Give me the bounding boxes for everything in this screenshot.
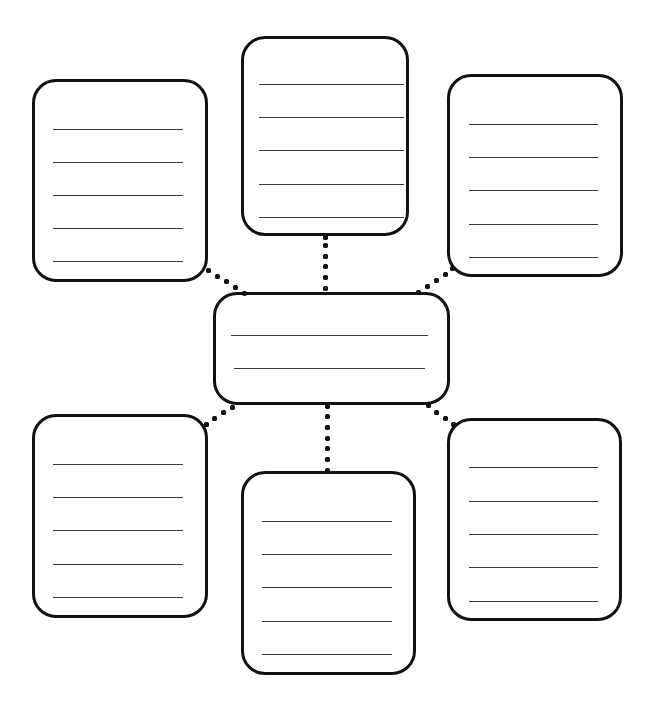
center-box (213, 292, 450, 405)
connector-bottom-center-dot (325, 436, 330, 441)
connector-top-left-dot (233, 285, 238, 290)
connector-bottom-left-dot (230, 405, 235, 410)
connector-top-left-dot (206, 268, 211, 273)
connector-top-right-dot (450, 266, 455, 271)
connector-bottom-center-dot (325, 425, 330, 430)
branch-box-bottom-right (447, 418, 622, 621)
writing-line (53, 564, 183, 565)
writing-line (53, 162, 183, 163)
writing-line (53, 261, 183, 262)
writing-line (53, 497, 183, 498)
connector-top-left-dot (242, 291, 247, 296)
connector-top-center-dot (323, 275, 328, 280)
branch-box-top-left (32, 79, 208, 282)
spider-map-diagram (0, 0, 654, 710)
connector-bottom-right-dot (451, 422, 456, 427)
writing-line (234, 368, 425, 369)
writing-line (259, 217, 404, 218)
branch-box-bottom-center (241, 471, 416, 675)
writing-line (469, 124, 598, 125)
connector-bottom-right-dot (443, 416, 448, 421)
writing-line (469, 534, 598, 535)
connector-top-right-dot (425, 284, 430, 289)
connector-bottom-center-dot (325, 414, 330, 419)
connector-bottom-center-dot (325, 404, 330, 409)
connector-top-left-dot (224, 279, 229, 284)
writing-line (262, 521, 392, 522)
writing-line (259, 184, 404, 185)
writing-line (53, 597, 183, 598)
writing-line (469, 257, 598, 258)
connector-bottom-left-dot (204, 422, 209, 427)
connector-bottom-right-dot (426, 403, 431, 408)
writing-line (469, 501, 598, 502)
connector-bottom-right-dot (434, 410, 439, 415)
writing-line (262, 554, 392, 555)
writing-line (469, 157, 598, 158)
writing-line (469, 467, 598, 468)
writing-line (259, 117, 404, 118)
branch-box-top-right (447, 74, 623, 277)
connector-top-right-dot (434, 278, 439, 283)
writing-line (53, 129, 183, 130)
connector-top-center-dot (323, 243, 328, 248)
writing-line (259, 84, 404, 85)
connector-top-center-dot (323, 264, 328, 269)
connector-top-left-dot (215, 274, 220, 279)
connector-top-center-dot (323, 235, 328, 240)
connector-bottom-center-dot (325, 468, 330, 473)
connector-bottom-left-dot (212, 416, 217, 421)
writing-line (53, 464, 183, 465)
writing-line (469, 224, 598, 225)
branch-box-bottom-left (32, 414, 208, 618)
writing-line (53, 195, 183, 196)
writing-line (53, 228, 183, 229)
connector-bottom-center-dot (325, 446, 330, 451)
connector-top-center-dot (323, 254, 328, 259)
writing-line (259, 150, 404, 151)
writing-line (262, 587, 392, 588)
writing-line (469, 567, 598, 568)
connector-top-right-dot (416, 290, 421, 295)
connector-top-center-dot (323, 286, 328, 291)
connector-bottom-left-dot (221, 410, 226, 415)
writing-line (469, 601, 598, 602)
writing-line (53, 530, 183, 531)
connector-top-right-dot (443, 272, 448, 277)
branch-box-top-center (241, 36, 409, 236)
writing-line (262, 621, 392, 622)
writing-line (469, 190, 598, 191)
writing-line (231, 335, 428, 336)
connector-bottom-center-dot (325, 457, 330, 462)
writing-line (262, 654, 392, 655)
